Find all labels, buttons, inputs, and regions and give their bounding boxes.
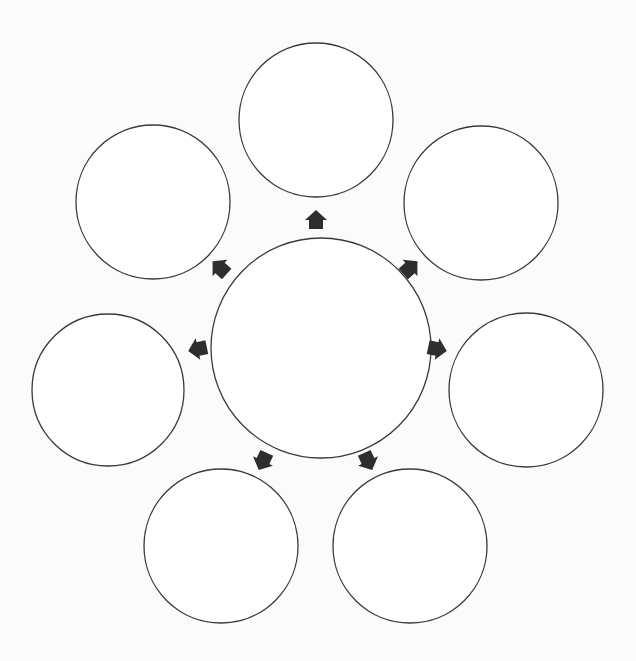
node-circle-left bbox=[32, 314, 184, 466]
center-node bbox=[211, 238, 431, 458]
node-top bbox=[239, 43, 393, 197]
hub-spoke-diagram bbox=[0, 0, 636, 661]
node-left bbox=[32, 314, 184, 466]
center-circle bbox=[211, 238, 431, 458]
node-right bbox=[449, 313, 603, 467]
node-bottom-right bbox=[333, 469, 487, 623]
node-circle-right bbox=[449, 313, 603, 467]
node-circle-bottom-right bbox=[333, 469, 487, 623]
node-top-right bbox=[404, 126, 558, 280]
node-circle-top-right bbox=[404, 126, 558, 280]
center-node-group bbox=[211, 238, 431, 458]
node-top-left bbox=[76, 125, 230, 279]
node-bottom-left bbox=[144, 469, 298, 623]
node-circle-top-left bbox=[76, 125, 230, 279]
node-circle-top bbox=[239, 43, 393, 197]
node-circle-bottom-left bbox=[144, 469, 298, 623]
